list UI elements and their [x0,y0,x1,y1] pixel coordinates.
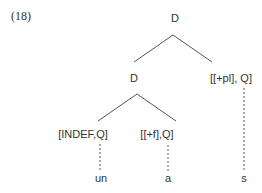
node-indef-q: [INDEF,Q] [58,128,108,140]
node-d: D [130,72,138,84]
tree-branches [0,0,262,193]
leaf-a: a [165,172,171,184]
leaf-un: un [95,172,107,184]
node-root: D [171,12,179,24]
node-f-q: [[+f],Q] [140,128,173,140]
leaf-s: s [241,172,247,184]
node-plural-q: [[+pl], Q] [210,72,252,84]
